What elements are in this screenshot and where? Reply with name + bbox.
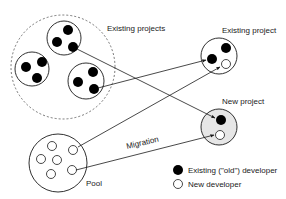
new-developer-icon	[222, 60, 231, 69]
new-developer-icon	[53, 156, 62, 165]
diagram-canvas: Existing projects Existing project New p…	[0, 0, 286, 199]
project-circle-bottom-right	[68, 63, 104, 99]
old-developer-icon	[216, 115, 226, 125]
new-developer-legend-icon	[174, 180, 183, 189]
existing-projects-label: Existing projects	[107, 24, 165, 33]
project-circle-top	[47, 21, 81, 55]
new-developer-icon	[37, 155, 46, 164]
legend-label-old: Existing ("old") developer	[188, 166, 278, 175]
new-project-node	[201, 109, 237, 145]
pool-node	[29, 134, 87, 192]
old-developer-icon	[73, 77, 83, 87]
project-circle-left	[15, 52, 49, 86]
new-developer-icon	[216, 131, 225, 140]
old-developer-icon	[68, 42, 78, 52]
old-developer-icon	[88, 67, 98, 77]
new-developer-icon	[68, 166, 77, 175]
old-developer-icon	[21, 62, 31, 72]
old-developer-icon	[89, 84, 99, 94]
legend-label-new: New developer	[188, 180, 242, 189]
legend: Existing ("old") developer New developer	[173, 165, 278, 189]
old-developer-icon	[52, 37, 62, 47]
new-developer-icon	[47, 170, 56, 179]
new-developer-icon	[48, 142, 57, 151]
new-project-label: New project	[222, 97, 265, 106]
migration-label: Migration	[125, 135, 159, 151]
existing-project-label: Existing project	[222, 26, 277, 35]
old-developer-icon	[63, 25, 73, 35]
old-developer-icon	[221, 43, 231, 53]
old-developer-legend-icon	[173, 165, 183, 175]
existing-projects-group	[11, 15, 115, 119]
old-developer-icon	[207, 54, 217, 64]
new-developer-icon	[69, 146, 78, 155]
pool-label: Pool	[86, 179, 102, 188]
existing-project-node	[201, 38, 237, 74]
old-developer-icon	[37, 57, 47, 67]
old-developer-icon	[32, 73, 42, 83]
